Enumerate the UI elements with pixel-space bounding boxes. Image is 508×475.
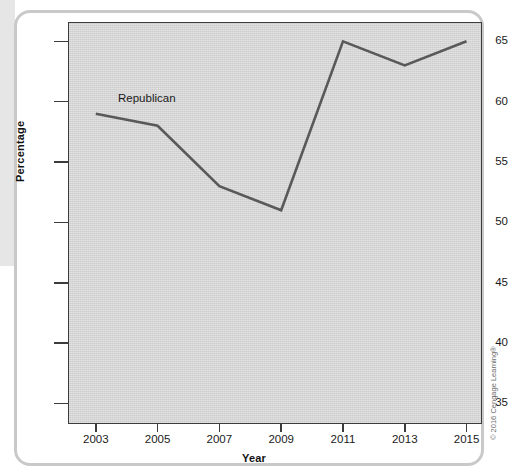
page-bleed-band <box>0 0 15 266</box>
y-axis-title: Percentage <box>14 121 26 182</box>
x-axis-tick <box>157 424 159 432</box>
y-axis-tick <box>54 161 68 163</box>
x-axis-tick-label: 2009 <box>251 434 311 446</box>
plot-texture-overlay <box>69 23 481 423</box>
x-axis-tick-label: 2015 <box>437 434 497 446</box>
x-axis-tick <box>404 424 406 432</box>
x-axis-title: Year <box>0 452 508 464</box>
x-axis-tick <box>95 424 97 432</box>
y-axis-tick-label: 35 <box>462 397 508 409</box>
y-axis-tick-label: 65 <box>462 35 508 47</box>
y-axis-tick-label: 45 <box>462 277 508 289</box>
copyright-notice: © 2016 Cengage Learning® <box>489 346 498 440</box>
x-axis-tick-label: 2003 <box>66 434 126 446</box>
y-axis-tick <box>54 222 68 224</box>
y-axis-tick <box>54 403 68 405</box>
y-axis-tick <box>54 101 68 103</box>
y-axis-tick-label: 40 <box>462 337 508 349</box>
x-axis-tick-label: 2011 <box>313 434 373 446</box>
x-axis-tick-label: 2013 <box>375 434 435 446</box>
y-axis-tick <box>54 41 68 43</box>
x-axis-tick <box>219 424 221 432</box>
x-axis-tick-label: 2005 <box>128 434 188 446</box>
y-axis-tick <box>54 282 68 284</box>
series-label-republican: Republican <box>118 92 176 104</box>
plot-area <box>68 22 482 424</box>
x-axis-tick-label: 2007 <box>189 434 249 446</box>
x-axis-tick <box>342 424 344 432</box>
x-axis-tick <box>280 424 282 432</box>
y-axis-tick-label: 60 <box>462 96 508 108</box>
x-axis-tick <box>466 424 468 432</box>
y-axis-tick-label: 50 <box>462 216 508 228</box>
y-axis-tick-label: 55 <box>462 156 508 168</box>
y-axis-tick <box>54 342 68 344</box>
